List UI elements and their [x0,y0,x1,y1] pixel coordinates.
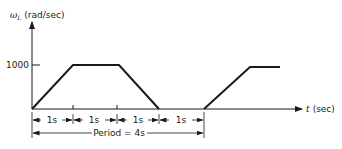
x-axis-label: t(sec) [306,104,335,114]
y-axis-label: ωL(rad/sec) [10,10,65,21]
segment-2-label: 1s [89,115,100,125]
y-tick-label: 1000 [6,60,29,70]
segment-1-label: 1s [47,115,58,125]
speed-waveform-next-cycle [204,67,280,109]
speed-profile-diagram: ωL(rad/sec) 1000 t(sec) 1s 1s 1s 1s Peri… [0,0,342,149]
speed-waveform [32,65,159,109]
segment-4-label: 1s [176,115,187,125]
period-label: Period = 4s [93,128,145,138]
segment-3-label: 1s [133,115,144,125]
